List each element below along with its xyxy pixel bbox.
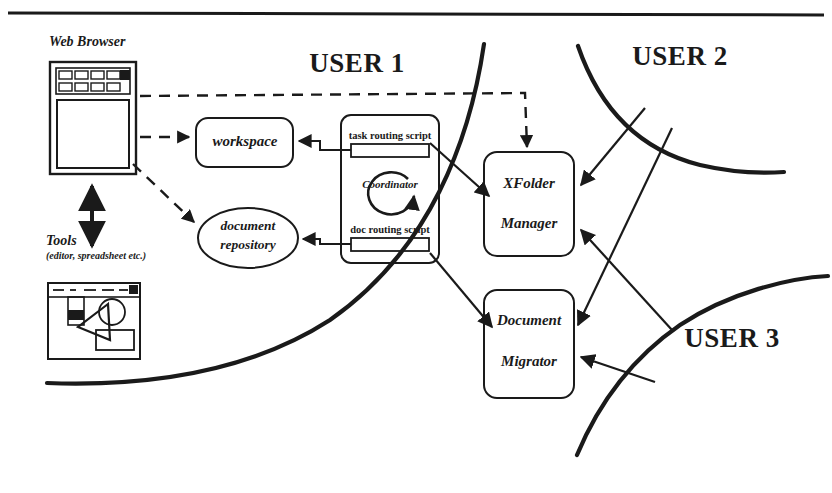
xfolder-manager-node-shape [484,152,574,256]
zone-divider-user1 [47,44,484,384]
zone-label-user2: USER 2 [632,42,727,70]
zone-label-user3: USER 3 [684,324,779,352]
document-repository-label-line1: document [221,219,276,233]
task-routing-script-label: task routing script [349,130,432,141]
zone-divider-user3 [577,276,828,455]
task-script-to-workspace-arrow [299,141,351,150]
document-repository-label-line2: repository [220,238,276,252]
document-migrator-node-shape [484,290,574,398]
xfolder-manager-label-line1: XFolder [503,176,555,192]
xfolder-manager-label-line2: Manager [501,216,558,232]
coordinator-label: Coordinator [362,179,418,191]
tools-window-icon [48,283,140,359]
doc-script-to-repository-arrow [303,239,351,244]
document-migrator-label-line2: Migrator [501,354,557,370]
diagram-vector-layer [0,0,832,493]
user2-to-migrator-arrow [578,128,672,325]
tools-subcaption: (editor, spreadsheet etc.) [46,251,146,262]
browser-to-repository-dashed-arrow [133,164,194,222]
user3-to-migrator-arrow [581,357,655,382]
diagram-canvas: Web Browser Tools (editor, spreadsheet e… [0,0,832,493]
web-browser-caption: Web Browser [49,35,125,50]
user2-to-xfolder-arrow [581,108,645,185]
workspace-label: workspace [213,134,278,150]
tools-caption: Tools [46,234,77,249]
zone-label-user1: USER 1 [309,49,404,77]
doc-routing-script-label: doc routing script [350,224,430,235]
doc-script-to-migrator-arrow [430,253,492,327]
document-migrator-label-line1: Document [497,313,561,329]
user3-to-xfolder-arrow [581,230,672,330]
web-browser-icon [50,62,136,174]
top-rule [8,13,824,15]
